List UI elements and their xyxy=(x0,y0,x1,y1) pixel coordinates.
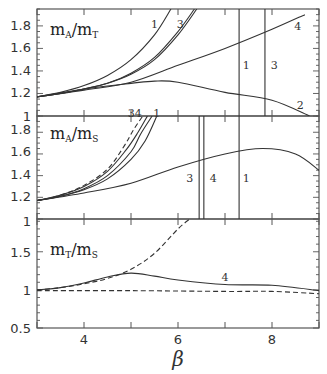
curve-label: 1 xyxy=(243,59,250,72)
curve-label: 34 xyxy=(128,107,142,120)
x-tick-labels: 4 6 8 xyxy=(80,332,276,347)
ytick-p2-1.2: 1.2 xyxy=(10,189,31,204)
ytick-p2-1.8: 1.8 xyxy=(10,122,31,137)
series-dashed-flat xyxy=(37,291,319,294)
ytick-p1-1.2: 1.2 xyxy=(10,85,31,100)
ytick-p1-1.4: 1.4 xyxy=(10,63,31,78)
ytick-p2-1.6: 1.6 xyxy=(10,144,31,159)
ytick-p3-0.5: 0.5 xyxy=(10,321,31,336)
curve-label: 1 xyxy=(151,18,158,31)
curve-label: 4 xyxy=(294,20,301,33)
svg-text:mA/mS: mA/mS xyxy=(50,124,98,144)
ytick-p3-1: 1 xyxy=(23,283,31,298)
svg-text:mT/mS: mT/mS xyxy=(50,240,98,260)
ytick-p2-1: 1 xyxy=(23,214,31,229)
panel-title-mt-ms: mT/mS xyxy=(50,240,98,260)
curve-label: 1 xyxy=(153,107,160,120)
ytick-p2-1.4: 1.4 xyxy=(10,167,31,182)
curve-label: 4 xyxy=(210,172,217,185)
xtick-4: 4 xyxy=(80,332,88,347)
curve-label: 4 xyxy=(222,271,229,284)
panel-frame xyxy=(37,219,319,328)
ytick-p1-1.6: 1.6 xyxy=(10,40,31,55)
ytick-p3-1.5: 1.5 xyxy=(10,245,31,260)
svg-text:mA/mT: mA/mT xyxy=(50,20,98,40)
curve-label: 1 xyxy=(243,172,250,185)
series-main xyxy=(37,149,319,201)
curve-label: 3 xyxy=(177,18,184,31)
x-axis-label: β xyxy=(171,347,184,371)
curve-label: 3 xyxy=(186,172,193,185)
chart-figure: 1.8 1.6 1.4 1.2 1 1.8 1.6 1.4 1.2 1 1.5 … xyxy=(0,0,327,374)
ytick-p1-1.8: 1.8 xyxy=(10,18,31,33)
curve-label: 3 xyxy=(271,59,278,72)
series-2 xyxy=(37,81,310,116)
panel-title-ma-ms: mA/mS xyxy=(50,124,98,144)
panel-title-ma-mt: mA/mT xyxy=(50,20,98,40)
curve-label: 2 xyxy=(297,99,304,112)
xtick-6: 6 xyxy=(174,332,182,347)
y-tick-labels: 1.8 1.6 1.4 1.2 1 1.8 1.6 1.4 1.2 1 1.5 … xyxy=(10,18,31,336)
xtick-8: 8 xyxy=(268,332,276,347)
series-4 xyxy=(37,273,319,291)
